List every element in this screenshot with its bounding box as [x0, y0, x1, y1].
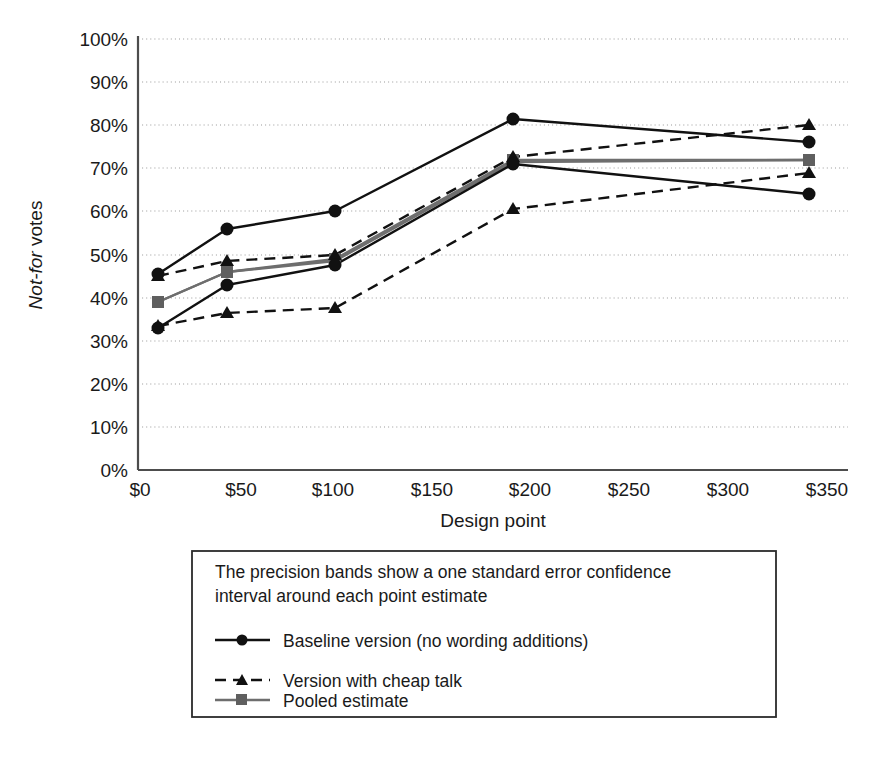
y-tick-60: 60%: [90, 201, 128, 222]
series-baseline-upper-band: [158, 119, 809, 274]
y-tick-90: 90%: [90, 72, 128, 93]
y-tick-0: 0%: [101, 460, 129, 481]
y-axis-title: Not-for votes: [25, 201, 46, 310]
not-for-votes-line-chart: 100% 90% 80% 70% 60% 50% 40% 30% 20% 10%…: [0, 0, 880, 778]
y-tick-80: 80%: [90, 115, 128, 136]
y-axis-title-roman: votes: [25, 201, 46, 252]
legend-note-line-2: interval around each point estimate: [215, 586, 487, 606]
y-tick-70: 70%: [90, 158, 128, 179]
x-axis-title: Design point: [440, 510, 546, 531]
marker-triangle-point: [328, 301, 342, 313]
series-baseline-lower-band: [158, 164, 809, 328]
y-tick-40: 40%: [90, 288, 128, 309]
y-tick-20: 20%: [90, 374, 128, 395]
y-tick-10: 10%: [90, 417, 128, 438]
x-tick-100: $100: [312, 479, 354, 500]
y-tick-50: 50%: [90, 245, 128, 266]
marker-circle-point: [152, 268, 165, 281]
marker-triangle-point: [802, 166, 816, 178]
marker-square-icon: [236, 694, 247, 705]
y-axis-title-italic: Not-for: [25, 251, 46, 310]
x-tick-350: $350: [806, 479, 848, 500]
legend-note-line-1: The precision bands show a one standard …: [215, 562, 671, 582]
y-gridlines: [138, 39, 848, 427]
marker-circle-point: [221, 279, 234, 292]
chart-legend: The precision bands show a one standard …: [192, 551, 776, 717]
marker-triangle-point: [802, 118, 816, 130]
marker-circle-point: [329, 259, 342, 272]
marker-circle-point: [152, 322, 165, 335]
x-tick-50: $50: [225, 479, 257, 500]
chart-figure: 100% 90% 80% 70% 60% 50% 40% 30% 20% 10%…: [0, 0, 880, 778]
x-tick-labels: $0 $50 $100 $150 $200 $250 $300 $350: [129, 479, 848, 500]
x-tick-150: $150: [411, 479, 453, 500]
x-tick-200: $200: [509, 479, 551, 500]
marker-square-point: [221, 266, 233, 278]
marker-circle-point: [507, 113, 520, 126]
marker-circle-point: [221, 223, 234, 236]
series-cheaptalk-lower-band: [158, 173, 809, 326]
legend-label-pooled: Pooled estimate: [283, 691, 409, 711]
x-tick-0: $0: [129, 479, 150, 500]
markers-baseline: [152, 113, 816, 335]
marker-circle-point: [507, 158, 520, 171]
x-tick-300: $300: [707, 479, 749, 500]
y-tick-labels: 100% 90% 80% 70% 60% 50% 40% 30% 20% 10%…: [79, 29, 128, 481]
marker-square-point: [803, 154, 815, 166]
y-tick-100: 100%: [79, 29, 128, 50]
marker-circle-point: [329, 205, 342, 218]
legend-label-baseline: Baseline version (no wording additions): [283, 631, 588, 651]
marker-circle-point: [803, 136, 816, 149]
x-tick-250: $250: [608, 479, 650, 500]
y-tick-30: 30%: [90, 331, 128, 352]
series-cheaptalk-upper-band: [158, 125, 809, 276]
marker-square-point: [152, 296, 164, 308]
marker-circle-icon: [237, 635, 248, 646]
legend-label-cheaptalk: Version with cheap talk: [283, 671, 462, 691]
marker-circle-point: [803, 188, 816, 201]
svg-text:Not-for votes: Not-for votes: [25, 201, 46, 310]
